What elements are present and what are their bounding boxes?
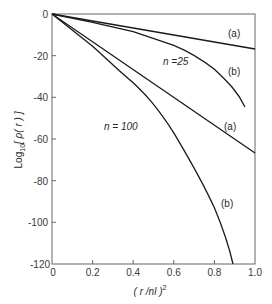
- y-tick-label: 0: [42, 9, 48, 20]
- x-title-sup: 2: [162, 284, 166, 291]
- y-title-rest: [ ρ( r ) ]: [13, 111, 24, 145]
- annotation-n100-b: (b): [221, 198, 233, 209]
- svg-text:Log10[ ρ( r ) ]: Log10[ ρ( r ) ]: [13, 111, 26, 168]
- x-tick-label: 1.0: [248, 267, 262, 278]
- curve-n100-b: [52, 14, 233, 264]
- x-tick-label: 0.8: [207, 267, 221, 278]
- annotation-n25-b: (b): [228, 66, 240, 77]
- x-tick-label: 0.6: [167, 267, 181, 278]
- x-title-main: ( r /nl ): [134, 286, 163, 297]
- x-tick-label: 0: [50, 267, 56, 278]
- y-tick-label: -60: [34, 134, 49, 145]
- curves: [52, 14, 255, 264]
- chart: 0 -20 -40 -60 -80 -100 -120 0 0.2 0.4 0.…: [0, 0, 272, 304]
- curve-n25-a: [52, 14, 255, 49]
- y-tick-label: -80: [34, 176, 49, 187]
- curve-n100-a: [52, 14, 255, 153]
- y-tick-label: -20: [34, 51, 49, 62]
- annotation-n100: n = 100: [104, 121, 138, 132]
- x-tick-label: 0.4: [126, 267, 140, 278]
- y-axis-title: Log10[ ρ( r ) ]: [13, 111, 26, 168]
- annotation-n25: n =25: [163, 56, 189, 67]
- plot-frame: [52, 14, 255, 264]
- annotation-n25-a: (a): [228, 28, 240, 39]
- y-title-main: Log: [13, 152, 24, 169]
- y-title-sub: 10: [19, 144, 26, 152]
- svg-text:( r /nl )2: ( r /nl )2: [134, 284, 167, 297]
- x-axis: 0 0.2 0.4 0.6 0.8 1.0: [50, 260, 262, 278]
- y-tick-label: -120: [30, 259, 50, 270]
- y-tick-label: -40: [34, 92, 49, 103]
- annotations: (a) n =25 (b) (a) n = 100 (b): [104, 28, 240, 209]
- x-axis-title: ( r /nl )2: [134, 284, 167, 297]
- annotation-n100-a: (a): [224, 121, 236, 132]
- x-tick-label: 0.2: [86, 267, 100, 278]
- curve-n25-b: [52, 14, 245, 107]
- y-tick-label: -100: [28, 217, 48, 228]
